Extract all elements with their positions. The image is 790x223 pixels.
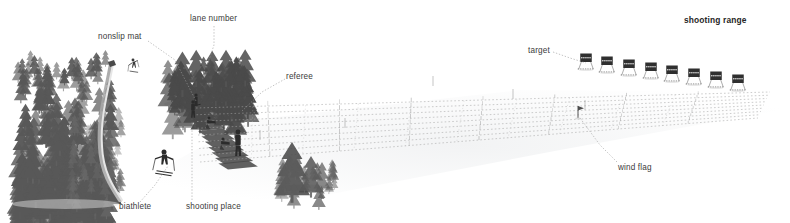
label-referee: referee — [286, 73, 313, 81]
label-wind-flag: wind flag — [618, 164, 652, 172]
label-lane-number: lane number — [190, 15, 237, 23]
label-shooting-place: shooting place — [186, 203, 241, 211]
label-shooting-range: shooting range — [684, 16, 747, 24]
label-target: target — [528, 47, 550, 55]
biathlon-range-diagram: lane numbernonslip matrefereetargetshoot… — [0, 0, 790, 223]
skier-figure — [128, 59, 139, 73]
label-biathlete: biathlete — [119, 203, 151, 211]
label-nonslip-mat: nonslip mat — [98, 33, 142, 41]
lane-number-post — [194, 93, 197, 105]
target-boards — [578, 54, 747, 93]
